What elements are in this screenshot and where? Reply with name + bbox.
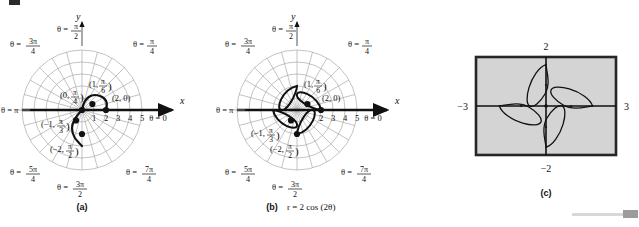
svg-text:θ =: θ = [341,167,352,177]
svg-text:4: 4 [365,47,369,56]
tick-3: 3 [331,113,335,123]
tick-5: 5 [355,113,359,123]
panel-c: 2 −2 −3 3 (c) [430,0,639,227]
svg-text:(−2,: (−2, [50,144,64,154]
ray-label-theta-3pi-2: θ = 3π 2 [57,180,87,199]
svg-text:): ) [75,145,79,158]
ray-label-theta-7pi-4: θ = 7π 4 [126,165,156,184]
svg-text:): ) [66,120,70,133]
ray-label-theta-3pi-4: θ = 3π 4 [225,37,255,56]
svg-text:4: 4 [73,97,77,106]
svg-text:(1,: (1, [89,79,98,89]
svg-text:(−2,: (−2, [270,144,284,154]
svg-text:(1,: (1, [304,79,313,89]
ray-label-theta-0: θ = 0 [149,113,166,123]
ray-label-theta-pi-2: θ = π 2 [57,22,81,41]
svg-text:π: π [269,126,273,135]
page-scrollbar[interactable] [572,210,638,218]
svg-text:θ =: θ = [10,167,21,177]
svg-text:(−1,: (−1, [41,119,55,129]
tick-4: 4 [343,113,348,123]
point-1-pi6 [304,101,310,107]
window-label-top: 2 [544,41,549,52]
ray-label-theta-5pi-4: θ = 5π 4 [10,165,40,184]
svg-text:π: π [289,22,293,31]
svg-text:5π: 5π [244,165,252,174]
svg-text:θ =: θ = [57,24,68,34]
svg-text:θ =: θ = [348,39,359,49]
svg-text:π: π [101,77,105,86]
point-neg2-pi2 [79,131,85,137]
ray-label-theta-pi-4: θ = π 4 [133,37,157,56]
panel-a-svg: 1 2 3 4 5 x y θ = 0 θ = π 4 θ = [0,0,215,227]
svg-text:7π: 7π [145,165,153,174]
panel-b-caption: (b) [266,202,278,212]
x-axis-label: x [179,95,185,106]
polar-coordinates-figure: 1 2 3 4 5 x y θ = 0 θ = π 4 θ = [0,0,639,227]
ray-label-theta-7pi-4: θ = 7π 4 [341,165,371,184]
svg-text:π: π [288,142,292,151]
svg-text:2: 2 [78,190,82,199]
tick-4: 4 [128,113,133,123]
svg-text:): ) [276,129,280,142]
svg-text:3π: 3π [244,37,252,46]
svg-text:(0,: (0, [60,90,69,100]
svg-text:5π: 5π [29,165,37,174]
svg-text:π: π [68,142,72,151]
svg-text:2: 2 [74,32,78,41]
svg-text:π: π [150,37,154,46]
ray-label-theta-pi-2: θ = π 2 [272,22,296,41]
x-axis-label: x [394,95,400,106]
svg-text:2: 2 [288,151,292,160]
tick-2: 2 [104,113,108,123]
panel-a-caption: (a) [77,202,88,212]
point-neg1-pi3 [288,117,294,123]
svg-text:2: 2 [68,151,72,160]
svg-text:θ =: θ = [10,39,21,49]
svg-text:4: 4 [31,47,35,56]
y-axis-label: y [290,11,296,22]
svg-text:θ =: θ = [57,182,68,192]
panel-b-equation: r = 2 cos (2θ) [287,202,335,212]
panel-c-svg: 2 −2 −3 3 (c) [430,0,639,227]
svg-text:3: 3 [269,135,273,144]
svg-text:4: 4 [147,175,151,184]
ray-label-theta-pi: θ = π [1,105,19,115]
svg-text:4: 4 [150,47,154,56]
svg-text:θ =: θ = [272,182,283,192]
panel-c-caption: (c) [541,188,552,198]
tick-3: 3 [116,113,120,123]
svg-text:π: π [365,37,369,46]
ray-label-theta-0: θ = 0 [364,113,381,123]
tick-5: 5 [140,113,144,123]
ray-label-theta-pi: θ = π [216,105,234,115]
point-1-pi6 [89,101,95,107]
point-neg2-pi2 [294,131,300,137]
ray-label-theta-5pi-4: θ = 5π 4 [225,165,255,184]
tick-2: 2 [319,113,323,123]
point-label-2-0: (2, 0) [322,93,341,103]
svg-text:(−1,: (−1, [251,128,265,138]
svg-text:θ =: θ = [272,24,283,34]
svg-text:π: π [59,117,63,126]
svg-text:θ =: θ = [133,39,144,49]
point-label-2-0: (2, 0) [112,93,131,103]
scrollbar-thumb[interactable] [623,210,638,218]
point-label-neg1-pi3: (−1, π 3 ) [41,117,70,135]
ray-label-theta-pi-4: θ = π 4 [348,37,372,56]
panel-a: 1 2 3 4 5 x y θ = 0 θ = π 4 θ = [0,0,215,227]
svg-text:3: 3 [59,126,63,135]
window-label-left: −3 [457,101,468,112]
ray-label-theta-3pi-4: θ = 3π 4 [10,37,40,56]
svg-text:4: 4 [246,175,250,184]
svg-text:3π: 3π [76,180,84,189]
svg-text:7π: 7π [360,165,368,174]
y-axis-label: y [75,11,81,22]
svg-text:): ) [295,145,299,158]
svg-text:): ) [323,80,327,93]
svg-text:6: 6 [316,86,320,95]
svg-text:): ) [80,91,84,104]
svg-text:4: 4 [246,47,250,56]
window-label-bottom: −2 [541,163,552,174]
svg-text:π: π [74,22,78,31]
